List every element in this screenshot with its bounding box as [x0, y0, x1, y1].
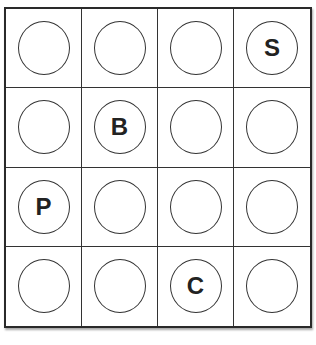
empty-circle[interactable]	[170, 21, 222, 75]
empty-circle[interactable]	[18, 100, 70, 154]
empty-circle[interactable]	[94, 259, 146, 313]
empty-circle[interactable]	[18, 259, 70, 313]
board-cell-r2-c1[interactable]	[6, 88, 82, 167]
board-cell-r1-c3[interactable]	[158, 9, 234, 88]
board-cell-r3-c2[interactable]	[82, 168, 158, 247]
board-cell-r1-c1[interactable]	[6, 9, 82, 88]
empty-circle[interactable]	[246, 180, 298, 234]
empty-circle[interactable]	[246, 100, 298, 154]
board-cell-r3-c4[interactable]	[234, 168, 310, 247]
lettered-circle[interactable]: S	[246, 21, 298, 75]
empty-circle[interactable]	[170, 180, 222, 234]
board-cell-r2-c3[interactable]	[158, 88, 234, 167]
board-cell-r2-c4[interactable]	[234, 88, 310, 167]
board-cell-r1-c2[interactable]	[82, 9, 158, 88]
board-cell-r3-c3[interactable]	[158, 168, 234, 247]
lettered-circle[interactable]: C	[170, 259, 222, 313]
empty-circle[interactable]	[94, 21, 146, 75]
game-board: SBPC	[4, 7, 312, 328]
board-cell-r4-c3[interactable]: C	[158, 247, 234, 326]
empty-circle[interactable]	[246, 259, 298, 313]
empty-circle[interactable]	[94, 180, 146, 234]
board-cell-r4-c2[interactable]	[82, 247, 158, 326]
empty-circle[interactable]	[170, 100, 222, 154]
lettered-circle[interactable]: P	[18, 180, 70, 234]
board-cell-r3-c1[interactable]: P	[6, 168, 82, 247]
board-cell-r1-c4[interactable]: S	[234, 9, 310, 88]
board-cell-r4-c1[interactable]	[6, 247, 82, 326]
lettered-circle[interactable]: B	[94, 100, 146, 154]
board-cell-r2-c2[interactable]: B	[82, 88, 158, 167]
board-cell-r4-c4[interactable]	[234, 247, 310, 326]
empty-circle[interactable]	[18, 21, 70, 75]
